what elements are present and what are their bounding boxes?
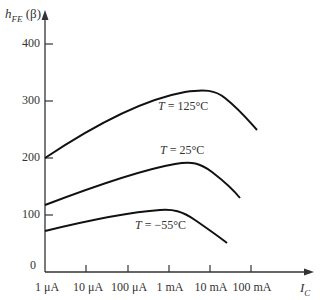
curve-label-minus55c-var: T — [135, 218, 142, 232]
curve-label-minus55c: T = −55°C — [135, 218, 186, 233]
x-tick-1ma: 1 mA — [157, 280, 184, 295]
curve-label-minus55c-value: = −55°C — [142, 218, 186, 232]
curve-label-125c: T = 125°C — [158, 99, 208, 114]
curve-25c — [45, 163, 240, 205]
y-axis-arrow-icon — [42, 10, 49, 20]
curve-label-25c-var: T — [160, 143, 167, 157]
y-axis-label-sub: FE — [12, 14, 23, 24]
x-tick-10ua: 10 μA — [73, 280, 103, 295]
y-tick-400: 400 — [10, 36, 40, 51]
y-axis-label-suffix: (β) — [23, 6, 42, 21]
curve-label-25c: T = 25°C — [160, 143, 204, 158]
x-axis-label-sub: C — [304, 288, 310, 298]
y-axis-label: hFE (β) — [5, 6, 41, 24]
y-tick-0: 0 — [6, 258, 36, 273]
x-axis-arrow-icon — [304, 269, 314, 276]
y-tick-300: 300 — [10, 93, 40, 108]
curve-label-125c-var: T — [158, 99, 165, 113]
x-tick-100ua: 100 μA — [111, 280, 147, 295]
y-tick-100: 100 — [10, 207, 40, 222]
curve-label-25c-value: = 25°C — [167, 143, 205, 157]
x-tick-100ma: 100 mA — [233, 280, 272, 295]
y-ticks — [45, 44, 53, 215]
x-tick-1ua: 1 μA — [35, 280, 59, 295]
y-tick-200: 200 — [10, 150, 40, 165]
x-ticks — [86, 265, 251, 272]
curve-label-125c-value: = 125°C — [165, 99, 209, 113]
curve-125c — [45, 90, 257, 158]
x-tick-10ma: 10 mA — [195, 280, 228, 295]
x-axis-label: IC — [300, 280, 310, 298]
